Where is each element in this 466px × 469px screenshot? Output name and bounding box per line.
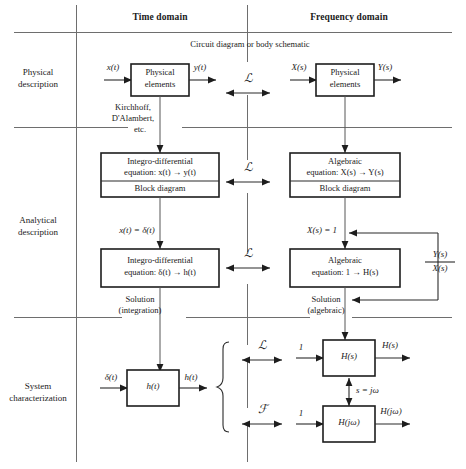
boxlabel-block-diagram-right: Block diagram xyxy=(320,184,371,194)
signal-y-of-t: y(t) xyxy=(194,62,207,72)
boxlabel-algebraic-1-line1: Algebraic xyxy=(328,157,362,167)
signal-hs-input: 1 xyxy=(299,342,304,352)
rowlabel-physical-line2: description xyxy=(18,79,58,89)
arrowhead-s-up xyxy=(346,378,353,386)
laplace-arrowhead-left-row3 xyxy=(226,265,234,272)
laplace-arrowhead-right-row4 xyxy=(274,357,282,364)
boxlabel-algebraic-2-line2: equation: 1 → H(s) xyxy=(312,268,379,278)
rowlabel-physical-line1: Physical xyxy=(23,67,54,77)
fourier-arrowhead-left xyxy=(242,421,250,428)
boxlabel-h-of-s: H(s) xyxy=(341,351,357,361)
caption-circuit-diagram: Circuit diagram or body schematic xyxy=(190,40,309,50)
signal-x-of-s: X(s) xyxy=(292,62,307,72)
solution-right-line1: Solution xyxy=(311,295,340,305)
solution-left-line1: Solution xyxy=(125,295,154,305)
signal-delta-input: δ(t) xyxy=(105,372,118,382)
feedback-arrowhead-top xyxy=(349,230,357,237)
boxlabel-integro-2-line1: Integro-differential xyxy=(127,256,193,266)
rowlabel-analytical-line2: description xyxy=(18,227,58,237)
laplace-arrowhead-left-row2 xyxy=(226,179,234,186)
rowlabel-analytical-line1: Analytical xyxy=(19,215,57,225)
boxlabel-physical-elements-freq-1: Physical xyxy=(330,68,359,78)
boxlabel-h-of-jomega: H(jω) xyxy=(338,417,359,427)
solution-left-line2: (integration) xyxy=(119,306,162,316)
laplace-operator-row2: ℒ xyxy=(244,161,253,174)
boxlabel-h-of-t: h(t) xyxy=(147,381,160,391)
arrowhead-hs-out xyxy=(402,355,410,362)
laplace-arrowhead-right-row2 xyxy=(262,179,270,186)
law-label-etc: etc. xyxy=(134,125,146,135)
arrowhead-impulse-left xyxy=(157,241,164,249)
signal-y-of-s: Y(s) xyxy=(378,62,393,72)
transfer-numerator: Y(s) xyxy=(433,249,448,259)
header-frequency-domain: Frequency domain xyxy=(310,12,388,23)
signal-hs-output: H(s) xyxy=(382,340,398,350)
arrowhead-hjw-out xyxy=(402,421,410,428)
boxlabel-physical-elements-time-2: elements xyxy=(145,80,176,90)
signal-h-output: h(t) xyxy=(185,372,198,382)
signal-x-of-t: x(t) xyxy=(107,62,120,72)
laplace-arrowhead-right-row3 xyxy=(262,265,270,272)
laplace-operator-row4: ℒ xyxy=(258,339,267,352)
transfer-denominator: X(s) xyxy=(433,263,448,273)
boxlabel-physical-elements-time-1: Physical xyxy=(145,68,174,78)
arrowhead-time-to-eq xyxy=(157,145,164,153)
solution-right-line2: (algebraic) xyxy=(307,306,344,316)
boxlabel-physical-elements-freq-2: elements xyxy=(330,80,361,90)
boxlabel-block-diagram-left: Block diagram xyxy=(135,184,186,194)
header-time-domain: Time domain xyxy=(132,12,187,23)
arrowhead-right-solution xyxy=(342,332,349,340)
boxlabel-algebraic-2-line1: Algebraic xyxy=(328,256,362,266)
rowlabel-system-line2: characterization xyxy=(9,393,66,403)
figure-canvas: Time domain Frequency domain Circuit dia… xyxy=(0,0,466,469)
boxlabel-integro-2-line2: equation: δ(t) → h(t) xyxy=(124,268,196,278)
grouping-brace xyxy=(217,342,229,432)
arrowhead-y-of-t xyxy=(208,77,216,84)
arrowhead-s-down xyxy=(346,398,353,406)
condition-x-equals-delta: x(t) = δ(t) xyxy=(119,225,155,235)
arrowhead-y-of-s xyxy=(393,77,401,84)
rowlabel-system-line1: System xyxy=(25,381,52,391)
arrowhead-h-out xyxy=(199,385,207,392)
label-s-equals-jomega: s = jω xyxy=(356,385,379,395)
laplace-arrowhead-left-row1 xyxy=(226,90,234,97)
boxlabel-integro-1-line1: Integro-differential xyxy=(127,157,193,167)
feedback-arrowhead-bottom xyxy=(352,297,360,304)
signal-hjw-input: 1 xyxy=(299,408,304,418)
condition-X-equals-one: X(s) = 1 xyxy=(307,225,337,235)
laplace-operator-row3: ℒ xyxy=(244,247,253,260)
arrowhead-impulse-right xyxy=(342,241,349,249)
fourier-arrowhead-right xyxy=(274,421,282,428)
arrowhead-freq-to-eq xyxy=(342,145,349,153)
boxlabel-integro-1-line2: equation: x(t) → y(t) xyxy=(124,168,196,178)
laplace-arrowhead-right-row1 xyxy=(262,90,270,97)
boxlabel-algebraic-1-line2: equation: X(s) → Y(s) xyxy=(306,168,383,178)
diagram-vector-layer xyxy=(0,0,466,469)
fourier-operator: ℱ xyxy=(258,403,267,416)
law-label-kirchhoff: Kirchhoff, xyxy=(115,103,151,113)
laplace-arrowhead-left-row4 xyxy=(242,357,250,364)
laplace-operator-row1: ℒ xyxy=(244,72,253,85)
signal-hjw-output: H(jω) xyxy=(380,406,401,416)
law-label-dalambert: D'Alambert, xyxy=(112,114,154,124)
